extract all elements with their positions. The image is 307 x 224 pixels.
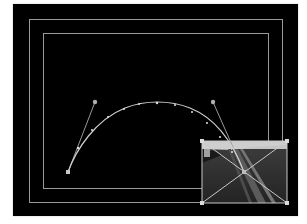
clip-center-handle[interactable]	[242, 170, 246, 174]
clip-handle-bottom-right[interactable]	[285, 201, 289, 205]
clip-handle-top-left[interactable]	[200, 139, 204, 143]
path-tick-marks	[77, 102, 233, 153]
bezier-control-in-handle[interactable]	[93, 100, 97, 104]
clip-handle-bottom-left[interactable]	[200, 201, 204, 205]
path-start-point[interactable]	[66, 170, 70, 174]
clip-handle-top-right[interactable]	[285, 139, 289, 143]
motion-path-overlay	[0, 0, 307, 224]
bezier-control-out-handle[interactable]	[211, 100, 215, 104]
